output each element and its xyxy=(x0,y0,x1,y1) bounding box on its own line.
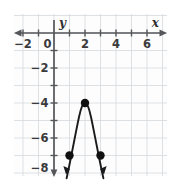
y-tick-label--8: −8 xyxy=(31,161,49,175)
y-tick-label--2: −2 xyxy=(31,61,49,75)
x-tick-label--2: −2 xyxy=(14,37,32,51)
data-point-right xyxy=(96,151,104,159)
x-tick-label-6: 6 xyxy=(143,37,151,51)
graph-screenshot: −2 0 2 4 6 −2 −4 −6 −8 y x xyxy=(0,0,178,189)
x-tick-label-2: 2 xyxy=(81,37,89,51)
x-tick-label-4: 4 xyxy=(112,37,120,51)
y-tick-label--6: −6 xyxy=(31,131,49,145)
data-point-left xyxy=(65,151,73,159)
x-tick-label-0: 0 xyxy=(43,37,51,51)
parabola-graph-svg: −2 0 2 4 6 −2 −4 −6 −8 y x xyxy=(0,0,178,189)
x-axis-label: x xyxy=(151,16,160,30)
y-axis-label: y xyxy=(58,16,67,30)
coordinate-plane-figure: −2 0 2 4 6 −2 −4 −6 −8 y x xyxy=(0,0,178,189)
y-tick-label--4: −4 xyxy=(31,96,49,110)
data-point-vertex xyxy=(81,99,89,107)
